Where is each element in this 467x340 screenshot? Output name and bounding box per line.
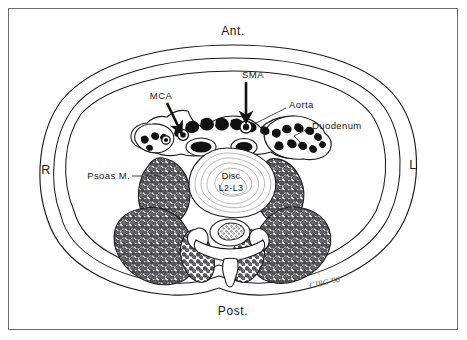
label-posterior: Post. [218, 304, 248, 318]
ivc-group [178, 130, 189, 141]
label-right: R [41, 163, 50, 177]
label-anterior: Ant. [221, 24, 245, 38]
label-aorta: Aorta [289, 99, 314, 110]
label-mca: MCA [150, 90, 173, 101]
label-psoas: Psoas M. [87, 170, 130, 181]
label-duodenum: Duodenum [312, 120, 362, 131]
label-left: L [409, 158, 416, 172]
label-disc-line2: L2-L3 [219, 183, 244, 193]
figure-root: Ant. Post. R L MCA SMA Aorta Duodenum Ps… [0, 0, 467, 340]
label-sma: SMA [242, 69, 264, 80]
anatomical-cross-section-illustration: Ant. Post. R L MCA SMA Aorta Duodenum Ps… [0, 0, 467, 340]
cauda-equina [218, 223, 244, 240]
aorta-group [240, 121, 252, 133]
spinal-canal-group [210, 219, 250, 246]
label-disc-line1: Disc [222, 171, 241, 181]
mca-vessel-group [162, 136, 170, 144]
